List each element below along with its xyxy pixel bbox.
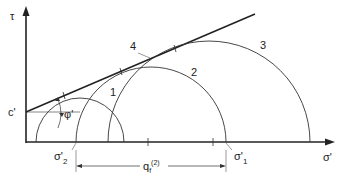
cohesion-label: c' [8,106,16,118]
sigma-axis-arrow-icon [325,139,335,146]
sigma2-label: σ'2 [54,150,68,166]
mohr-circle-3 [108,41,310,142]
friction-angle-label: φ' [64,108,73,120]
sigma-axis-label: σ' [323,151,332,163]
failure-envelope [26,14,255,112]
sigma1-label: σ'1 [234,150,248,166]
sigma2-leader [72,143,76,150]
circle-3-label: 3 [260,39,266,51]
circle-2-label: 2 [191,66,197,78]
tau-axis-arrow-icon [23,6,30,16]
qf-arrow-right-icon [220,164,226,168]
sigma1-leader [226,143,232,150]
envelope-leader [138,53,150,58]
qf-label: qf(2) [143,159,160,174]
mohr-diagram: τ σ' c' φ' 1 2 3 4 σ'2 σ'1 qf(2) [0,0,354,181]
mohr-circle-2 [76,67,226,142]
tau-axis-label: τ [10,10,15,22]
qf-arrow-left-icon [76,164,82,168]
circle-1-label: 1 [110,86,116,98]
envelope-label: 4 [130,40,136,52]
